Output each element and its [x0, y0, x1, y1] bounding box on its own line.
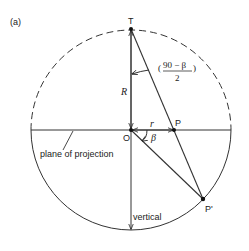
label-T: T	[128, 16, 134, 26]
label-beta: β	[150, 132, 156, 143]
label-P-prime: P'	[205, 204, 213, 214]
op-prime-line	[131, 130, 203, 199]
label-r: r	[150, 118, 154, 129]
svg-text:): )	[193, 63, 196, 73]
point-P-prime	[201, 197, 205, 201]
label-O: O	[123, 133, 130, 143]
half-angle-arc	[132, 70, 149, 74]
point-T	[129, 27, 133, 31]
plane-leader-line	[63, 131, 73, 150]
label-vertical: vertical	[133, 212, 162, 222]
point-P	[172, 128, 176, 132]
svg-text:(: (	[158, 63, 161, 73]
angle-numerator: 90 − β	[163, 60, 187, 70]
stereographic-projection-diagram: (a) T O P P' R r β ( 90 − β 2 ) plane of…	[0, 0, 249, 251]
label-plane-of-projection: plane of projection	[40, 149, 114, 159]
angle-denominator: 2	[175, 73, 180, 83]
beta-angle-arc	[142, 130, 147, 141]
half-angle-label: ( 90 − β 2 )	[158, 60, 196, 83]
label-P: P	[175, 118, 181, 128]
point-O	[129, 128, 133, 132]
label-R: R	[120, 86, 127, 97]
panel-label: (a)	[10, 17, 21, 27]
projection-ray	[131, 29, 203, 199]
